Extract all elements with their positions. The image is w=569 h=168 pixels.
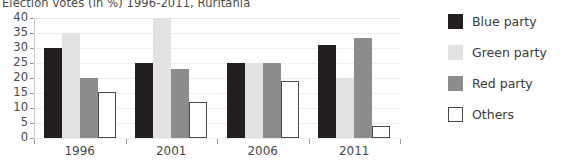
legend-swatch-icon (448, 107, 463, 122)
x-tick-label: 2001 (131, 145, 211, 157)
bar (153, 18, 171, 138)
legend-item[interactable]: Blue party (448, 6, 568, 37)
x-tick-mark (34, 139, 35, 144)
x-tick-mark (309, 139, 310, 144)
bar (372, 126, 390, 138)
plot-area (34, 18, 400, 138)
legend-item[interactable]: Red party (448, 68, 568, 99)
bar (98, 92, 116, 139)
legend-label: Others (472, 107, 514, 122)
x-tick-label: 1996 (40, 145, 120, 157)
y-tick-label: 5 (0, 117, 28, 129)
bar (44, 48, 62, 138)
legend-label: Green party (472, 45, 547, 60)
legend-swatch-icon (448, 45, 463, 60)
bar-group (126, 18, 218, 138)
bar-group (217, 18, 309, 138)
legend-item[interactable]: Others (448, 99, 568, 130)
bar (336, 78, 354, 138)
y-tick-label: 25 (0, 57, 28, 69)
y-tick-label: 10 (0, 102, 28, 114)
y-tick-label: 20 (0, 72, 28, 84)
y-tick-label: 15 (0, 87, 28, 99)
bar (80, 78, 98, 138)
bar (171, 69, 189, 138)
bar (245, 63, 263, 138)
x-tick-mark (217, 139, 218, 144)
bar-chart-figure: Election votes (in %) 1996-2011, Ruritan… (0, 0, 569, 168)
bar (227, 63, 245, 138)
chart-title: Election votes (in %) 1996-2011, Ruritan… (2, 0, 250, 10)
bar (62, 33, 80, 138)
bar-group (309, 18, 401, 138)
bar (318, 45, 336, 138)
legend-item[interactable]: Green party (448, 37, 568, 68)
bar (189, 102, 207, 138)
legend-label: Red party (472, 76, 533, 91)
x-tick-mark (126, 139, 127, 144)
y-tick-label: 30 (0, 42, 28, 54)
bar (263, 63, 281, 138)
x-tick-label: 2011 (314, 145, 394, 157)
y-tick-label: 35 (0, 27, 28, 39)
chart-legend: Blue partyGreen partyRed partyOthers (448, 6, 568, 130)
x-tick-mark (400, 139, 401, 144)
bar-group (34, 18, 126, 138)
bar (281, 81, 299, 138)
legend-label: Blue party (472, 14, 537, 29)
y-tick-label: 0 (0, 132, 28, 144)
x-tick-label: 2006 (223, 145, 303, 157)
legend-swatch-icon (448, 14, 463, 29)
legend-swatch-icon (448, 76, 463, 91)
bar (354, 38, 372, 139)
bar (135, 63, 153, 138)
y-tick-label: 40 (0, 12, 28, 24)
